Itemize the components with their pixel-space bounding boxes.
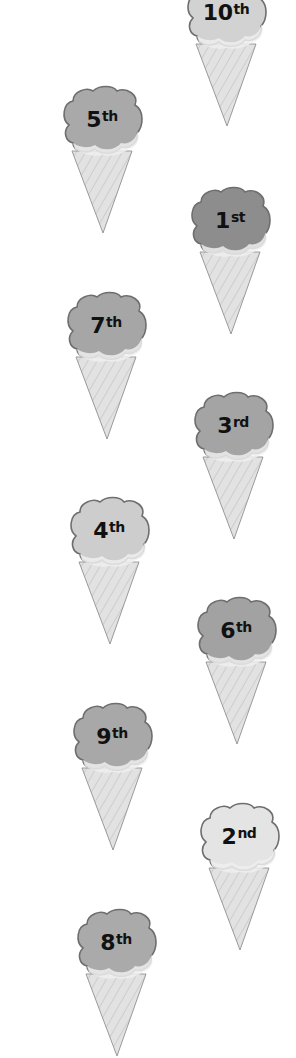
ice-cream-cone-1st: 1st [187, 186, 273, 336]
ice-cream-cone-7th: 7th [63, 291, 149, 441]
ordinal-label: 4th [66, 518, 152, 543]
ordinal-label: 10th [183, 0, 269, 25]
ordinal-label: 5th [59, 107, 145, 132]
ice-cream-cone-6th: 6th [193, 596, 279, 746]
ice-cream-cone-2nd: 2nd [196, 802, 282, 952]
ice-cream-cone-10th: 10th [183, 0, 269, 128]
ordinal-label: 1st [187, 208, 273, 233]
ordinal-label: 3rd [190, 413, 276, 438]
ice-cream-cone-5th: 5th [59, 85, 145, 235]
ice-cream-cone-3rd: 3rd [190, 391, 276, 541]
ice-cream-cone-4th: 4th [66, 496, 152, 646]
ice-cream-cone-9th: 9th [69, 702, 155, 852]
ice-cream-cone-8th: 8th [73, 908, 159, 1058]
ordinal-label: 2nd [196, 824, 282, 849]
ordinal-label: 6th [193, 618, 279, 643]
ordinal-label: 7th [63, 313, 149, 338]
ordinal-label: 9th [69, 724, 155, 749]
ordinal-label: 8th [73, 930, 159, 955]
